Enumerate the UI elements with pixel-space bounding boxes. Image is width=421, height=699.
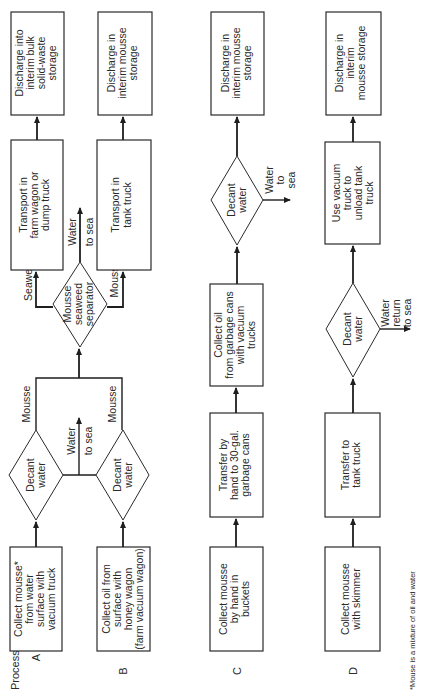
svg-text:storage: storage (127, 45, 139, 80)
svg-text:storage: storage (241, 45, 253, 80)
mousse-transport-box: Transport in tank truck (97, 140, 151, 270)
step-c-transfer-box: Transfer by hand to 30-gal. garbage cans (210, 413, 263, 517)
step-b-decant-diamond: Decant water (96, 430, 149, 520)
footnote: *Mouse is a mixture of oil and water (408, 571, 417, 690)
step-c-discharge-box: Discharge in interim mousse storage (211, 12, 264, 115)
step-d-decant-diamond: Decant water (326, 283, 380, 377)
svg-text:tank truck: tank truck (350, 441, 362, 487)
svg-text:water: water (35, 462, 47, 489)
svg-text:truck: truck (363, 181, 375, 205)
step-c-collect-box: Collect mousse by hand in buckets (210, 547, 263, 651)
svg-text:tank truck: tank truck (121, 181, 133, 227)
svg-text:water: water (236, 187, 248, 214)
seaweed-transport-box: Transport in farm wagon or dump truck (11, 140, 63, 270)
label-d-to-sea: to sea (401, 299, 413, 328)
step-d-collect-box: Collect mousse with skimmer (325, 547, 380, 651)
process-label-a: A (30, 653, 42, 661)
step-c-vacuum-box: Collect oil from garbage cans with vacuu… (210, 284, 263, 386)
process-heading: Process (9, 650, 21, 690)
label-c-sea: sea (285, 171, 297, 188)
step-a-collect-box: Collect mousse* from water surface with … (10, 547, 62, 651)
label-a-mousse: Mousse (20, 385, 32, 422)
seaweed-discharge-box: Discharge into interim bulk solid-waste … (11, 12, 64, 115)
svg-text:separator: separator (83, 281, 95, 326)
process-label-b: B (117, 667, 129, 674)
step-d-vacuum-box: Use vacuum truck to unload tank truck (325, 142, 380, 244)
process-label-c: C (231, 667, 243, 675)
svg-text:water: water (122, 462, 134, 489)
label-separator-water: Water (66, 218, 78, 246)
svg-text:mousse storage: mousse storage (355, 25, 367, 100)
process-flow-diagram: Process A B C D Collect mousse* from wat… (0, 0, 421, 699)
step-b-collect-box: Collect oil from surface with honey wago… (97, 547, 150, 651)
svg-text:vacuum truck: vacuum truck (45, 567, 57, 630)
svg-text:Transport in: Transport in (109, 177, 121, 233)
step-c-decant-diamond: Decant water (211, 156, 263, 245)
separator-diamond: Mousse seaweed separator (53, 262, 107, 347)
step-a-decant-diamond: Decant water (9, 430, 63, 520)
svg-text:(farm vacuum wagon): (farm vacuum wagon) (133, 548, 145, 650)
step-d-discharge-box: Discharge in interim mousse storage (326, 12, 381, 115)
mousse-discharge-box: Discharge in interim mousse storage (98, 12, 152, 115)
arrow-seaweed-branch (36, 272, 53, 307)
label-ab-water-to-sea-2: to sea (82, 427, 94, 456)
svg-text:dump truck: dump truck (39, 178, 51, 231)
step-d-transfer-box: Transfer to tank truck (325, 413, 380, 517)
svg-text:Process: Process (9, 650, 21, 690)
svg-text:trucks: trucks (245, 321, 257, 349)
svg-text:storage: storage (46, 45, 58, 80)
label-b-mousse: Mousse (106, 385, 118, 422)
label-separator-to-sea: to sea (83, 218, 95, 247)
svg-text:with skimmer: with skimmer (350, 568, 362, 631)
svg-text:buckets: buckets (239, 581, 251, 617)
svg-text:water: water (352, 316, 364, 343)
process-label-d: D (347, 667, 359, 675)
svg-text:garbage cans: garbage cans (239, 433, 251, 497)
label-ab-water-to-sea: Water (65, 427, 77, 455)
